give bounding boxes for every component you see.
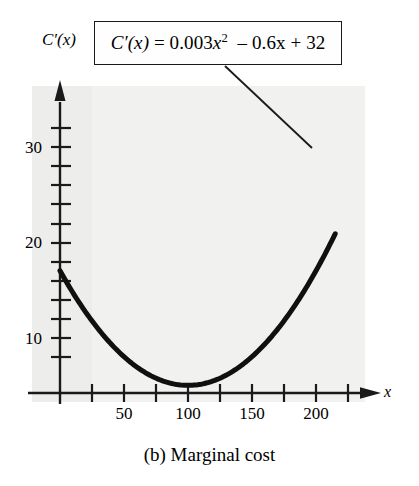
equation-constant-term: + 32 <box>290 32 325 53</box>
equation-exponent: 2 <box>221 31 227 45</box>
x-tick-label-150: 150 <box>230 404 274 424</box>
equation-linear-term-text: – 0.6x <box>238 32 286 53</box>
marginal-cost-figure: C′(x) = 0.003x2 – 0.6x + 32 C′(x) x 50 1… <box>0 0 419 486</box>
y-axis-label: C′(x) <box>42 30 76 50</box>
y-tick-label-10: 10 <box>0 329 42 349</box>
x-tick-label-100: 100 <box>166 404 210 424</box>
annotation-leader-line <box>225 66 312 148</box>
equation-text: C′(x) = 0.003x2 – 0.6x + 32 <box>111 32 326 54</box>
equation-lhs: C′(x) <box>111 32 149 53</box>
equation-callout-box: C′(x) = 0.003x2 – 0.6x + 32 <box>94 21 342 65</box>
marginal-cost-curve <box>60 234 335 386</box>
equation-equals: = <box>154 32 165 53</box>
x-tick-label-200: 200 <box>294 404 338 424</box>
x-tick-label-50: 50 <box>104 404 144 424</box>
x-axis-label: x <box>384 383 391 401</box>
equation-quadratic-coefficient: 0.003 <box>170 32 213 53</box>
y-tick-label-30: 30 <box>0 138 42 158</box>
y-tick-label-20: 20 <box>0 233 42 253</box>
figure-caption: (b) Marginal cost <box>0 444 419 466</box>
x-axis <box>28 387 381 399</box>
